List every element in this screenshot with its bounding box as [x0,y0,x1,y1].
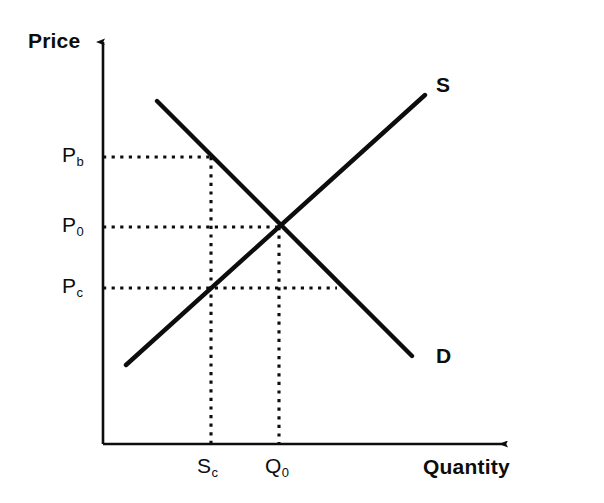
price-tick-pb-base: P [62,143,76,166]
quantity-tick-sc: Sc [197,455,218,476]
supply-demand-figure: Price Quantity Pb P0 Pc Sc Q0 S D [0,0,604,503]
y-axis-title: Price [28,30,80,51]
price-tick-pc-sub: c [77,285,84,300]
quantity-tick-q0-base: Q [265,454,281,477]
quantity-tick-sc-base: S [197,454,211,477]
demand-curve-label: D [436,345,451,366]
quantity-tick-q0: Q0 [265,455,289,476]
price-tick-pb: Pb [62,144,83,165]
price-tick-p0-sub: 0 [77,224,84,239]
quantity-tick-q0-sub: 0 [282,465,289,480]
plot-canvas [0,0,604,503]
price-tick-pb-sub: b [77,154,84,169]
quantity-tick-sc-sub: c [212,465,219,480]
supply-curve-label: S [436,74,450,95]
price-tick-p0: P0 [62,214,83,235]
x-axis-title: Quantity [423,456,510,477]
price-tick-p0-base: P [62,213,76,236]
price-tick-pc: Pc [62,275,83,296]
price-tick-pc-base: P [62,274,76,297]
